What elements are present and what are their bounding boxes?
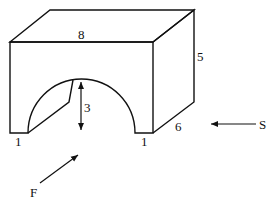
depth-label: 6 [175, 119, 182, 134]
right-foot-label: 1 [141, 134, 148, 149]
left-foot-label: 1 [15, 134, 22, 149]
arch-radius-label: 3 [84, 100, 91, 115]
front-view-arrow [40, 155, 78, 183]
width-label: 8 [78, 27, 85, 42]
front-view-label: F [30, 185, 37, 200]
side-view-label: S [259, 117, 266, 132]
right-face [153, 10, 194, 133]
block-diagram: 8 5 6 3 1 1 F S [0, 0, 274, 205]
top-face [10, 10, 194, 42]
height-label: 5 [197, 49, 204, 64]
